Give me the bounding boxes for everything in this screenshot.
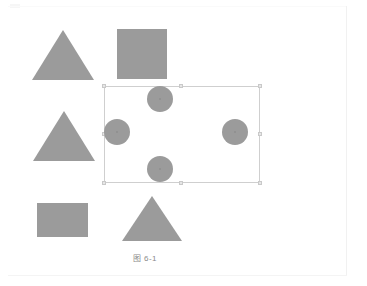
anchor-pip-circle-bottom	[159, 168, 161, 170]
resize-handle-middle-right[interactable]	[258, 132, 262, 136]
resize-handle-bottom-center[interactable]	[179, 181, 183, 185]
resize-handle-top-left[interactable]	[102, 84, 106, 88]
anchor-pip-circle-left	[116, 131, 118, 133]
shape-triangle-bottom[interactable]	[122, 196, 182, 241]
resize-handle-bottom-left[interactable]	[102, 181, 106, 185]
scanned-page: 图 6-1	[0, 0, 367, 286]
shape-square-top[interactable]	[117, 29, 167, 79]
anchor-pip-circle-top	[159, 98, 161, 100]
shape-triangle-middle-left[interactable]	[33, 111, 95, 161]
figure-canvas	[0, 0, 367, 286]
shape-circle-right[interactable]	[222, 119, 248, 145]
shape-triangle-top-left[interactable]	[32, 30, 94, 80]
shape-circle-top[interactable]	[147, 86, 173, 112]
shape-circle-left[interactable]	[104, 119, 130, 145]
resize-handle-top-center[interactable]	[179, 84, 183, 88]
anchor-pip-circle-right	[234, 131, 236, 133]
shape-circle-bottom[interactable]	[147, 156, 173, 182]
resize-handle-bottom-right[interactable]	[258, 181, 262, 185]
resize-handle-top-right[interactable]	[258, 84, 262, 88]
shape-rectangle-bottom-left[interactable]	[37, 203, 88, 237]
figure-caption: 图 6-1	[0, 252, 290, 263]
